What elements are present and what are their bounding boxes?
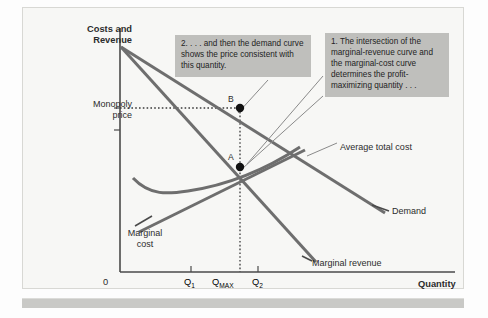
x-tick-q1: Q1 bbox=[184, 277, 195, 289]
point-b-marker bbox=[236, 104, 244, 112]
annotation-note-1: 1. The intersection of the marginal-reve… bbox=[325, 33, 449, 97]
monopoly-price-label: Monopoly price bbox=[52, 99, 132, 121]
x-tick-qmax-sub: MAX bbox=[219, 282, 233, 289]
average-total-cost-label: Average total cost bbox=[340, 142, 412, 153]
x-tick-qmax: QMAX bbox=[212, 277, 234, 289]
marginal-cost-curve bbox=[139, 150, 305, 232]
leader-average-total-cost bbox=[307, 143, 337, 156]
demand-label: Demand bbox=[392, 206, 426, 217]
leader-marginal-cost bbox=[135, 216, 152, 226]
point-b-label: B bbox=[228, 94, 234, 104]
x-axis-label: Quantity bbox=[418, 279, 456, 290]
y-axis-label: Costs and Revenue bbox=[60, 24, 132, 47]
x-tick-q2: Q2 bbox=[252, 277, 263, 289]
point-a-marker bbox=[236, 163, 244, 171]
x-tick-q1-sub: 1 bbox=[191, 282, 195, 289]
x-tick-q2-sub: 2 bbox=[259, 282, 263, 289]
origin-label: 0 bbox=[103, 277, 108, 288]
point-a-label: A bbox=[228, 152, 234, 162]
figure-container: Costs and Revenue Monopoly price 2. . . … bbox=[0, 0, 488, 318]
annotation-note-2: 2. . . . and then the demand curve shows… bbox=[175, 35, 311, 77]
marginal-revenue-label: Marginal revenue bbox=[312, 258, 382, 269]
marginal-cost-label: Marginal cost bbox=[115, 228, 175, 250]
